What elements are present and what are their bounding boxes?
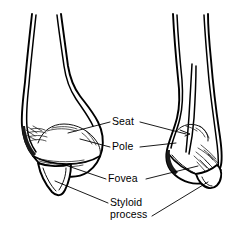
right-bone-view <box>166 14 221 188</box>
left-bone-view <box>22 14 103 195</box>
label-styloid-process: Styloidprocess <box>110 197 147 220</box>
label-fovea: Fovea <box>108 173 138 185</box>
label-styloid-line-1: Styloid <box>110 196 142 208</box>
label-styloid-line-2: process <box>110 208 147 220</box>
label-seat: Seat <box>112 116 134 128</box>
anatomical-figure: Seat Pole Fovea Styloidprocess <box>0 0 234 234</box>
label-pole: Pole <box>112 141 133 153</box>
leader-styloid-right <box>152 182 208 216</box>
